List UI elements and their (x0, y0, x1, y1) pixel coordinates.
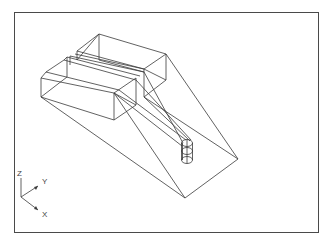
ramp-mid-line-1 (144, 97, 238, 159)
ucs-z-label: Z (17, 169, 22, 178)
left-box-left-diagonal (41, 77, 67, 97)
converge-line-2 (136, 80, 191, 140)
wireframe-drawing: Z Y X (0, 0, 334, 244)
cylinder (182, 140, 193, 164)
groove-line-3 (70, 56, 144, 72)
rear-box-face (144, 54, 166, 97)
ramp-left-edge (41, 97, 185, 198)
wireframe-model (41, 34, 238, 198)
ucs-x-label: X (42, 210, 48, 219)
ucs-icon: Z Y X (17, 169, 48, 219)
converge-line-3 (144, 72, 183, 143)
left-box-top-front-edge (41, 78, 114, 93)
ucs-y-label: Y (42, 177, 48, 186)
ramp-right-edge (166, 54, 238, 159)
ramp-bottom-edge (185, 159, 238, 198)
tall-box-top-edge (77, 34, 99, 51)
tall-box-bottom-edge (99, 60, 144, 72)
tall-box-top-long-edge (99, 34, 166, 54)
left-box-front-face (41, 78, 114, 120)
groove-line-1 (64, 60, 136, 80)
left-box-top-left-edge (41, 57, 67, 78)
ramp-front-line (114, 93, 185, 198)
ucs-x-arrow-icon (34, 206, 38, 210)
